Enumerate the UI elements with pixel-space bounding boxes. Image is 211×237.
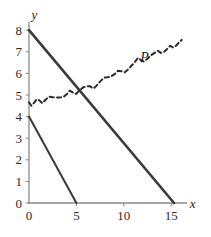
y-axis-tick-label: 5 [16, 88, 23, 103]
x-axis-tick-labels: 051015 [26, 208, 178, 223]
series-label-P: P [139, 50, 149, 65]
y-axis-label: y [30, 7, 38, 22]
y-axis-tick-labels: 012345678 [16, 23, 23, 211]
x-axis-label: x [189, 196, 196, 211]
y-axis-tick-label: 3 [16, 131, 23, 146]
x-axis-tick-label: 5 [73, 208, 80, 223]
y-axis-tick-label: 8 [16, 23, 23, 38]
series-budget-line-long [29, 30, 174, 203]
chart-canvas: 012345678 051015 P y x [0, 0, 211, 237]
x-axis-tick-label: 15 [165, 208, 178, 223]
x-axis-tick-label: 10 [117, 208, 130, 223]
axes-group [29, 23, 186, 203]
series-budget-line-short [29, 117, 76, 203]
y-axis-tick-label: 4 [16, 109, 23, 124]
y-axis-tick-label: 1 [16, 174, 23, 189]
y-axis-tick-label: 2 [16, 152, 23, 167]
series-labels-group: P [139, 50, 149, 65]
y-axis-tick-label: 0 [16, 196, 23, 211]
y-axis-tick-label: 6 [16, 66, 23, 81]
series-P [29, 40, 182, 106]
y-axis-tick-label: 7 [16, 44, 23, 59]
chart-figure: 012345678 051015 P y x [0, 0, 211, 237]
data-series-group [29, 30, 182, 203]
x-axis-tick-label: 0 [26, 208, 33, 223]
